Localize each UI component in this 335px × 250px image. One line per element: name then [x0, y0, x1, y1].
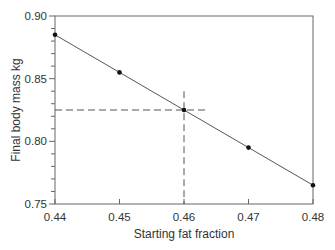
data-point-marker — [182, 108, 187, 113]
x-axis-title: Starting fat fraction — [134, 227, 235, 241]
y-tick-label: 0.75 — [25, 198, 47, 210]
line-chart: 0.900.850.800.75 0.440.450.460.470.48 St… — [0, 0, 335, 250]
y-axis-tick-labels: 0.900.850.800.75 — [25, 10, 47, 210]
y-tick-label: 0.85 — [25, 73, 47, 85]
y-tick-label: 0.90 — [25, 10, 47, 22]
x-tick-label: 0.48 — [302, 211, 324, 223]
y-axis-title: Final body mass kg — [9, 58, 23, 161]
y-tick-label: 0.80 — [25, 135, 47, 147]
x-tick-label: 0.46 — [173, 211, 195, 223]
x-tick-label: 0.44 — [44, 211, 67, 223]
x-tick-label: 0.45 — [108, 211, 130, 223]
data-point-marker — [117, 70, 122, 75]
x-tick-label: 0.47 — [237, 211, 259, 223]
data-point-marker — [53, 33, 58, 38]
data-point-marker — [246, 145, 251, 150]
x-axis-tick-labels: 0.440.450.460.470.48 — [44, 211, 324, 223]
data-point-marker — [311, 183, 316, 188]
y-axis-ticks — [49, 16, 55, 204]
